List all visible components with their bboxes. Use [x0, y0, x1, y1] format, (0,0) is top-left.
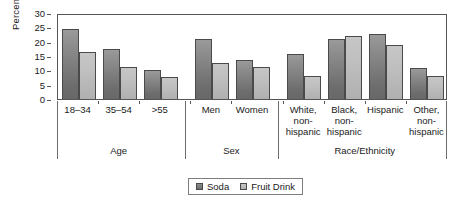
x-axis-category-label: Men: [190, 104, 231, 115]
bar: [144, 70, 161, 99]
x-axis-group-separator: [57, 101, 58, 159]
x-axis-category-label-line: non-: [406, 115, 447, 126]
x-axis-tick-mark: [406, 101, 407, 104]
x-axis-tick-mark: [283, 101, 284, 104]
legend-item[interactable]: Soda: [196, 182, 229, 192]
bar: [79, 52, 96, 99]
legend-swatch-icon: [240, 183, 247, 190]
x-axis-category-label-line: hispanic: [324, 126, 365, 137]
y-axis-tick-mark: [47, 43, 51, 44]
bar: [345, 36, 362, 99]
x-axis-category-label: White,non-hispanic: [283, 104, 324, 137]
bar: [427, 76, 444, 100]
x-axis-category-label-line: Men: [190, 104, 231, 115]
y-axis-tick-mark: [47, 28, 51, 29]
y-axis-tick-mark: [47, 86, 51, 87]
bar: [195, 39, 212, 99]
bar: [287, 54, 304, 99]
x-axis-tick-mark: [98, 101, 99, 104]
legend-item[interactable]: Fruit Drink: [240, 182, 295, 192]
legend-swatch-icon: [196, 183, 203, 190]
x-axis-label-band: 18–3435–54>55MenWomenWhite,non-hispanicB…: [57, 101, 447, 163]
bar: [369, 34, 386, 99]
bar: [386, 45, 403, 99]
x-axis-tick-mark: [324, 101, 325, 104]
plot-area: [57, 14, 447, 100]
x-axis-category-label-line: hispanic: [283, 126, 324, 137]
bar-chart-figure: Percent 051015202530 18–3435–54>55MenWom…: [0, 0, 463, 205]
x-axis-category-label: >55: [139, 104, 180, 115]
x-axis-category-label: 18–34: [57, 104, 98, 115]
x-axis-category-label-line: non-: [283, 115, 324, 126]
x-axis-category-label: 35–54: [98, 104, 139, 115]
legend-label: Fruit Drink: [251, 182, 295, 192]
x-axis-group-label: Age: [57, 145, 180, 156]
x-axis-category-label-line: Hispanic: [365, 104, 406, 115]
y-axis-tick-label: 25: [34, 24, 45, 34]
bar: [212, 63, 229, 99]
x-axis-category-label-line: 18–34: [57, 104, 98, 115]
y-axis-ticks: 051015202530: [24, 0, 51, 205]
y-axis-tick-mark: [47, 57, 51, 58]
bar: [328, 39, 345, 99]
y-axis-tick-label: 20: [34, 38, 45, 48]
x-axis-category-label-line: Women: [231, 104, 272, 115]
x-axis-group-separator: [185, 101, 186, 159]
bar: [120, 67, 137, 99]
y-axis-tick-label: 0: [40, 95, 45, 105]
x-axis-category-label-line: White,: [283, 104, 324, 115]
y-axis-tick-label: 10: [34, 67, 45, 77]
x-axis-group-label: Race/Ethnicity: [283, 145, 447, 156]
x-axis-group-separator: [278, 101, 279, 159]
bar-series-container: [58, 15, 446, 99]
x-axis-category-label-line: hispanic: [406, 126, 447, 137]
y-axis-tick-label: 30: [34, 9, 45, 19]
x-axis-category-label-line: 35–54: [98, 104, 139, 115]
x-axis-tick-mark: [365, 101, 366, 104]
bar: [236, 60, 253, 99]
x-axis-category-label: Other,non-hispanic: [406, 104, 447, 137]
y-axis-tick-mark: [47, 71, 51, 72]
x-axis-category-label: Hispanic: [365, 104, 406, 115]
x-axis-category-label-line: Other,: [406, 104, 447, 115]
bar: [253, 67, 270, 99]
bar: [103, 49, 120, 99]
legend-label: Soda: [207, 182, 229, 192]
x-axis-tick-mark: [190, 101, 191, 104]
bar: [161, 77, 178, 99]
x-axis-group-separator: [446, 101, 447, 159]
y-axis-title: Percent: [10, 0, 24, 44]
x-axis-category-label-line: Black,: [324, 104, 365, 115]
x-axis-category-label-line: non-: [324, 115, 365, 126]
x-axis-group-label: Sex: [190, 145, 272, 156]
y-axis-tick-mark: [47, 100, 51, 101]
x-axis-category-label-line: >55: [139, 104, 180, 115]
bar: [62, 29, 79, 99]
y-axis-title-container: Percent: [0, 14, 24, 106]
bar: [304, 76, 321, 100]
chart-legend: SodaFruit Drink: [188, 178, 303, 195]
bar: [410, 68, 427, 99]
x-axis-category-label: Women: [231, 104, 272, 115]
x-axis-tick-mark: [231, 101, 232, 104]
x-axis-tick-mark: [139, 101, 140, 104]
x-axis-category-label: Black,non-hispanic: [324, 104, 365, 137]
y-axis-tick-label: 15: [34, 52, 45, 62]
y-axis-tick-mark: [47, 14, 51, 15]
y-axis-tick-label: 5: [40, 81, 45, 91]
